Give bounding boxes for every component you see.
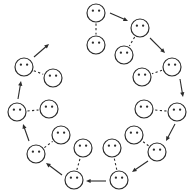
agent-node-circle [44,69,62,87]
agent-node-eye-left-icon [173,109,175,111]
agent-node-eye-right-icon [144,74,146,76]
flow-arrow-shaft [110,13,125,20]
agent-node-circle [110,171,128,189]
agent-node-eye-left-icon [130,132,132,134]
agent-node-eye-left-icon [120,52,122,54]
agent-node-circle [52,126,70,144]
agent-node-circle [133,68,151,86]
agent-node-pair-6-outer[interactable] [110,171,128,189]
agent-node-pair-1-inner[interactable] [87,36,105,54]
agent-node-eye-right-icon [55,75,57,77]
agent-node-pair-6-inner[interactable] [103,139,121,157]
agent-node-circle [8,103,26,121]
agent-node-eye-right-icon [26,64,28,66]
agent-node-pair-5-inner[interactable] [125,126,143,144]
agent-node-circle [163,58,181,76]
agent-node-eye-right-icon [146,106,148,108]
agent-node-pair-7-inner[interactable] [74,139,92,157]
agent-node-pair-5-outer[interactable] [148,143,166,161]
pair-link-pair-5 [142,141,148,146]
agent-node-eye-left-icon [20,64,22,66]
agent-node-pair-8-outer[interactable] [27,145,45,163]
agent-node-eye-right-icon [19,109,21,111]
agent-node-circle [87,36,105,54]
agent-node-circle [15,58,33,76]
agent-node-eye-left-icon [168,64,170,66]
flow-arrow-arrow-3 [180,79,184,97]
pair-link-pair-7 [77,158,80,170]
agent-node-pair-10-outer[interactable] [15,58,33,76]
ring-diagram-svg [0,0,196,196]
agent-node-pair-3-inner[interactable] [133,68,151,86]
flow-arrow-arrow-6 [86,179,106,183]
agent-node-eye-left-icon [108,145,110,147]
agent-node-eye-right-icon [85,145,87,147]
agent-node-pair-9-inner[interactable] [40,100,58,118]
agent-node-eye-left-icon [32,151,34,153]
agent-node-circle [115,46,133,64]
agent-node-eye-right-icon [76,177,78,179]
agent-node-eye-left-icon [79,145,81,147]
agent-node-eye-right-icon [121,177,123,179]
agent-node-circle [125,126,143,144]
agent-node-pair-9-outer[interactable] [8,103,26,121]
agent-node-eye-left-icon [70,177,72,179]
flow-arrow-arrow-5 [132,161,148,172]
agent-node-circle [148,143,166,161]
pair-link-pair-6 [114,158,117,169]
agent-node-eye-right-icon [98,10,100,12]
agent-node-circle [74,139,92,157]
agent-node-circle [40,100,58,118]
agent-node-pair-2-inner[interactable] [115,46,133,64]
pair-link-pair-3 [152,70,162,73]
agent-node-eye-right-icon [136,132,138,134]
flow-arrow-arrow-2 [150,38,165,53]
pair-link-pair-9 [27,110,38,111]
agent-node-pair-2-outer[interactable] [131,19,149,37]
agent-node-eye-right-icon [38,151,40,153]
flow-arrow-shaft [18,84,20,99]
flow-arrow-arrow-1 [110,13,128,21]
agent-node-eye-right-icon [174,64,176,66]
agent-node-eye-left-icon [140,106,142,108]
agent-node-eye-left-icon [136,25,138,27]
flow-arrow-shaft [168,124,175,138]
flow-arrow-shaft [135,161,148,170]
agent-node-eye-left-icon [115,177,117,179]
agent-node-eye-right-icon [159,149,161,151]
flow-arrow-shaft [34,46,46,57]
agent-node-circle [168,103,186,121]
agent-node-eye-left-icon [13,109,15,111]
agent-node-pair-1-outer[interactable] [87,4,105,22]
flow-arrow-arrow-4 [166,124,175,141]
agent-node-pair-7-outer[interactable] [65,171,83,189]
agent-node-pair-10-inner[interactable] [44,69,62,87]
agent-node-pair-4-outer[interactable] [168,103,186,121]
flow-arrow-head-icon [86,179,91,183]
agent-node-circle [103,139,121,157]
agent-node-pair-4-inner[interactable] [135,100,153,118]
agent-node-circle [135,100,153,118]
flow-arrow-arrow-10 [34,44,49,57]
flow-arrow-shaft [180,79,182,94]
flow-arrow-shaft [24,127,29,141]
agent-node-circle [131,19,149,37]
flow-arrow-arrow-9 [18,81,22,99]
pair-link-pair-8 [44,141,52,147]
agent-node-eye-right-icon [179,109,181,111]
flow-arrow-head-icon [180,92,184,97]
agent-node-eye-left-icon [49,75,51,77]
agent-node-eye-right-icon [63,132,65,134]
agent-node-eye-right-icon [126,52,128,54]
agent-node-eye-left-icon [45,106,47,108]
flow-arrow-arrow-7 [46,163,62,175]
agent-node-eye-right-icon [98,42,100,44]
agent-node-eye-left-icon [138,74,140,76]
diagram-canvas: Ring of paired agent nodes Ten pairs of … [0,0,196,196]
agent-node-pair-3-outer[interactable] [163,58,181,76]
agent-node-eye-right-icon [51,106,53,108]
pair-link-pair-2 [129,37,134,46]
agent-node-pair-8-inner[interactable] [52,126,70,144]
agent-node-eye-left-icon [57,132,59,134]
agent-node-circle [65,171,83,189]
